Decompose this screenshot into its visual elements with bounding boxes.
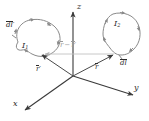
loop-1-current-label: I1	[22, 42, 28, 50]
r-prime-label: r′	[36, 66, 41, 73]
x-axis-label: x	[13, 100, 18, 108]
z-axis-label: z	[77, 3, 81, 11]
x-axis-line	[25, 76, 73, 110]
r-vector-line	[73, 55, 113, 76]
loop-2-current-label: I2	[114, 20, 120, 28]
figure-canvas: dl′ I1 I2 dl r−r′ r′ r z y x	[0, 0, 149, 121]
y-axis-label: y	[134, 84, 139, 92]
y-axis-line	[73, 76, 133, 95]
r-label: r	[95, 64, 98, 71]
dl-label: dl	[120, 60, 127, 67]
loop-2-path	[103, 13, 140, 59]
dl-prime-label: dl′	[6, 22, 14, 29]
r-prime-vector-line	[42, 55, 73, 76]
loop-1-path	[12, 19, 60, 56]
separation-vector-label: r−r′	[60, 42, 76, 49]
